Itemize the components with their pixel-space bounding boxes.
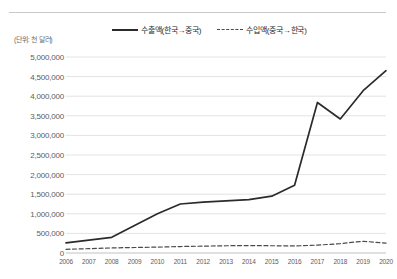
chart-container: (단위: 천 달러) 수출액(한국→중국) 수입액(중국→한국) 0500,00… xyxy=(0,0,397,279)
plot-area xyxy=(0,0,397,279)
series-line-import xyxy=(66,241,386,249)
